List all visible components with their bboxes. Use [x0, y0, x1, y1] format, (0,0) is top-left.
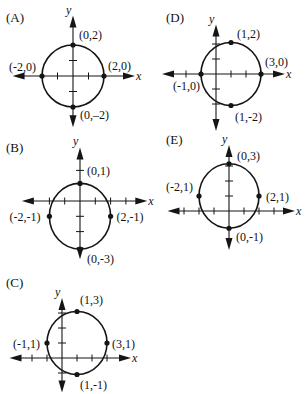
y-axis-up-arrow-icon [70, 16, 77, 28]
y-axis-label: y [72, 134, 79, 148]
x-axis-left-arrow-icon [162, 71, 174, 78]
y-axis-up-arrow-icon [59, 298, 66, 310]
graph-d: (D)xy(1,2)(-1,0)(3,0)(1,-2) [162, 10, 292, 131]
y-axis-label: y [208, 12, 215, 26]
point-label: (-1,0) [173, 79, 200, 93]
y-axis-up-arrow-icon [213, 25, 220, 37]
point-marker [39, 73, 44, 78]
y-axis-label: y [65, 3, 72, 17]
point-marker [228, 103, 233, 108]
point-label: (1,-1) [80, 378, 107, 392]
point-label: (2,1) [266, 190, 289, 204]
circle-graphs-figure: (A)xy(0,2)(-2,0)(2,0)(0,–2)(D)xy(1,2)(-1… [0, 0, 307, 394]
x-axis-right-arrow-icon [283, 208, 295, 215]
point-label: (0,-1) [236, 230, 263, 244]
point-marker [101, 73, 106, 78]
point-marker [198, 71, 203, 76]
option-label: (C) [6, 275, 23, 290]
point-marker [47, 214, 52, 219]
point-label: (-2,0) [9, 60, 36, 74]
point-marker [77, 181, 82, 186]
point-marker [74, 309, 79, 314]
y-axis-down-arrow-icon [213, 119, 220, 131]
point-label: (0,2) [79, 28, 102, 42]
x-axis-right-arrow-icon [135, 198, 147, 205]
point-label: (3,1) [112, 337, 135, 351]
graph-a: (A)xy(0,2)(-2,0)(2,0)(0,–2) [6, 3, 142, 128]
option-label: (E) [166, 132, 183, 147]
point-label: (3,0) [265, 55, 288, 69]
point-label: (-2,-1) [9, 210, 40, 224]
point-label: (0,3) [237, 149, 260, 163]
point-label: (1,-2) [235, 110, 262, 124]
graph-c: (C)xy(1,3)(-1,1)(3,1)(1,-1) [6, 275, 138, 393]
point-label: (2,-1) [117, 210, 144, 224]
point-marker [70, 104, 75, 109]
x-axis-right-arrow-icon [119, 355, 131, 362]
x-axis-label: x [135, 69, 142, 83]
point-marker [226, 161, 231, 166]
point-marker [226, 226, 231, 231]
x-axis-label: x [285, 67, 292, 81]
x-axis-right-arrow-icon [123, 73, 135, 80]
graph-e: (E)xy(0,3)(-2,1)(2,1)(0,-1) [166, 132, 302, 250]
y-axis-label: y [54, 285, 61, 299]
y-axis-label: y [221, 132, 228, 146]
y-axis-down-arrow-icon [226, 238, 233, 250]
option-label: (A) [6, 10, 24, 25]
option-label: (D) [166, 10, 184, 25]
point-marker [70, 42, 75, 47]
point-label: (-2,1) [166, 180, 193, 194]
x-axis-left-arrow-icon [22, 198, 34, 205]
x-axis-right-arrow-icon [273, 71, 285, 78]
point-marker [108, 214, 113, 219]
x-axis-label: x [295, 204, 302, 218]
y-axis-down-arrow-icon [59, 381, 66, 393]
y-axis-down-arrow-icon [70, 115, 77, 127]
x-axis-label: x [131, 351, 138, 365]
point-label: (2,0) [108, 59, 131, 73]
x-axis-label: x [147, 194, 154, 208]
point-marker [104, 340, 109, 345]
point-label: (1,3) [80, 293, 103, 307]
point-marker [77, 247, 82, 252]
x-axis-left-arrow-icon [10, 355, 22, 362]
y-axis-up-arrow-icon [226, 145, 233, 157]
point-marker [196, 193, 201, 198]
graph-b: (B)xy(0,1)(-2,-1)(2,-1)(0,-3) [6, 134, 154, 266]
point-label: (0,-3) [87, 252, 114, 266]
x-axis-left-arrow-icon [168, 208, 180, 215]
point-marker [74, 372, 79, 377]
option-label: (B) [6, 140, 23, 155]
y-axis-up-arrow-icon [77, 147, 84, 159]
point-label: (0,1) [87, 164, 110, 178]
point-label: (1,2) [237, 27, 260, 41]
circle-curve [47, 312, 107, 375]
point-marker [258, 71, 263, 76]
point-marker [256, 193, 261, 198]
point-marker [44, 340, 49, 345]
point-label: (-1,1) [13, 337, 40, 351]
point-label: (0,–2) [80, 108, 109, 122]
point-marker [228, 40, 233, 45]
